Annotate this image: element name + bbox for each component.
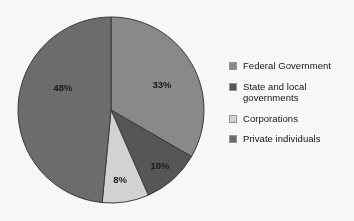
pie-label-corporations: 8% bbox=[113, 174, 127, 185]
legend-item-label: Federal Government bbox=[243, 60, 331, 72]
pie-slice-private-individuals[interactable] bbox=[18, 17, 111, 203]
legend-item-federal-government[interactable]: Federal Government bbox=[229, 60, 354, 72]
legend-item-label: Corporations bbox=[243, 113, 298, 125]
legend-swatch-icon bbox=[229, 115, 237, 123]
legend-swatch-icon bbox=[229, 62, 237, 70]
legend-swatch-icon bbox=[229, 135, 237, 143]
legend-swatch-icon bbox=[229, 83, 237, 91]
chart-legend: Federal Government State and local gover… bbox=[229, 60, 354, 154]
pie-chart-figure: 33% 10% 8% 48% Federal Government State … bbox=[0, 0, 354, 221]
pie-label-private-individuals: 48% bbox=[53, 82, 73, 93]
legend-item-private-individuals[interactable]: Private individuals bbox=[229, 133, 354, 145]
pie-label-state-and-local-governments: 10% bbox=[150, 160, 170, 171]
legend-item-label: State and local governments bbox=[243, 81, 307, 104]
legend-item-corporations[interactable]: Corporations bbox=[229, 113, 354, 125]
pie-label-federal-government: 33% bbox=[152, 79, 172, 90]
pie-slices bbox=[18, 17, 204, 203]
legend-item-state-and-local-governments[interactable]: State and local governments bbox=[229, 81, 354, 104]
legend-item-label: Private individuals bbox=[243, 133, 321, 145]
